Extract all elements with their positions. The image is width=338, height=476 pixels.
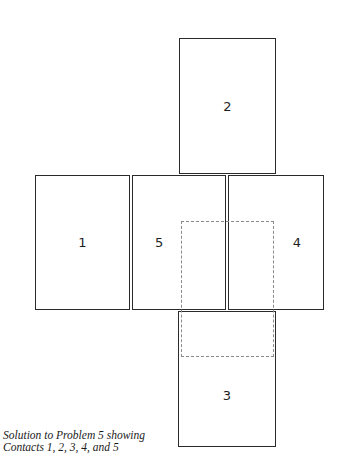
contact-label-1: 1 [78,235,86,250]
contact-label-5: 5 [155,235,163,250]
contact-box-2: 2 [179,38,276,174]
dashed-overlay-rect [181,221,274,357]
contact-label-2: 2 [223,99,231,114]
figure-caption: Solution to Problem 5 showing Contacts 1… [3,429,145,453]
contact-label-3: 3 [223,388,231,403]
contact-label-4: 4 [293,235,301,250]
contact-box-1: 1 [35,175,130,310]
caption-line-2: Contacts 1, 2, 3, 4, and 5 [3,441,145,453]
caption-line-1: Solution to Problem 5 showing [3,429,145,441]
